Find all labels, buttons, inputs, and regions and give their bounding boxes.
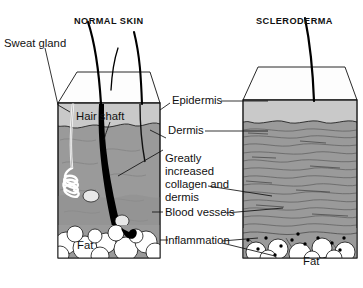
normal-fat-layer	[51, 225, 164, 265]
scleroderma-epidermis-layer	[243, 100, 357, 123]
skin-comparison-figure: NORMAL SKIN SCLERODERMA Sweat gland Hair…	[0, 0, 363, 288]
label-collagen-line3: collagen and	[165, 178, 229, 190]
label-hair-shaft: Hair shaft	[76, 110, 125, 122]
sebaceous-gland	[83, 190, 99, 202]
scleroderma-fat-layer	[243, 228, 357, 267]
label-inflammation: Inflammation	[165, 234, 230, 246]
label-fat-right: Fat	[303, 255, 320, 267]
label-dermis: Dermis	[168, 124, 204, 136]
title-scleroderma: SCLERODERMA	[256, 16, 333, 26]
title-normal-skin: NORMAL SKIN	[74, 16, 144, 26]
label-collagen-line4: dermis	[165, 191, 199, 203]
label-epidermis: Epidermis	[172, 94, 223, 106]
normal-skin-block	[51, 22, 164, 265]
label-collagen-line1: Greatly	[165, 152, 202, 164]
illustration-canvas: NORMAL SKIN SCLERODERMA Sweat gland Hair…	[0, 0, 363, 288]
label-fat-left: Fat	[77, 239, 94, 251]
scleroderma-top-face	[243, 67, 357, 100]
label-collagen-line2: increased	[165, 165, 214, 177]
label-blood-vessels: Blood vessels	[165, 206, 235, 218]
scleroderma-block	[243, 18, 357, 267]
leader-epidermis-left	[160, 103, 170, 110]
label-sweat-gland: Sweat gland	[4, 37, 66, 49]
normal-top-face	[58, 72, 160, 103]
